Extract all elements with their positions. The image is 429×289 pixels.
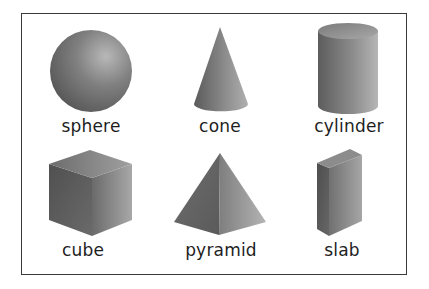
cube-label: cube xyxy=(62,240,104,260)
sphere-label: sphere xyxy=(61,116,120,136)
cone-shape xyxy=(194,27,248,111)
cone-label: cone xyxy=(199,116,241,136)
pyramid-label: pyramid xyxy=(185,240,257,260)
cylinder-shape xyxy=(318,23,378,114)
slab-label: slab xyxy=(324,240,360,260)
slab-shape xyxy=(317,149,362,236)
pyramid-shape xyxy=(174,153,266,235)
sphere-shape xyxy=(50,30,132,112)
cube-shape xyxy=(49,150,132,236)
cylinder-label: cylinder xyxy=(314,116,383,136)
